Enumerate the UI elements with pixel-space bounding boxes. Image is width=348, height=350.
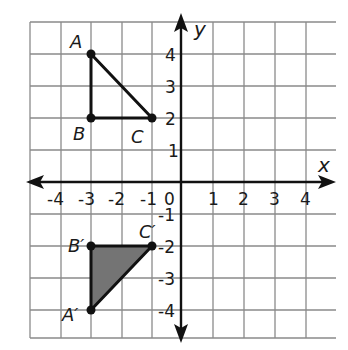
y-tick: 4	[165, 45, 176, 65]
vertex-c	[148, 114, 157, 123]
vertex-b	[87, 114, 96, 123]
vertex-c-prime	[148, 242, 157, 251]
x-tick: 3	[269, 189, 280, 209]
y-axis	[174, 13, 188, 343]
y-tick: 3	[165, 77, 176, 97]
vertex-a	[87, 50, 96, 59]
vertex-a-prime-label: A′	[61, 304, 78, 325]
vertex-b-prime-label: B′	[68, 235, 84, 256]
x-tick: -4	[47, 189, 64, 209]
vertex-a-label: A	[69, 31, 82, 52]
x-tick-labels: -4 -3 -2 -1 0 1 2 3 4	[47, 189, 311, 209]
vertex-a-prime	[87, 306, 96, 315]
x-tick: 1	[208, 189, 219, 209]
x-tick: -1	[140, 189, 157, 209]
x-tick: 2	[238, 189, 249, 209]
x-tick: -3	[78, 189, 95, 209]
x-axis-label: x	[317, 153, 330, 177]
x-tick: 4	[300, 189, 311, 209]
y-tick: -1	[158, 205, 175, 225]
y-tick: -2	[158, 237, 175, 257]
vertex-b-prime	[87, 242, 96, 251]
triangle-abc: A B C	[69, 31, 157, 147]
y-axis-label: y	[193, 17, 207, 41]
y-tick: -3	[158, 269, 175, 289]
vertex-c-label: C	[131, 126, 144, 147]
grid	[30, 22, 336, 338]
x-tick: -2	[108, 189, 125, 209]
vertex-c-prime-label: C′	[139, 221, 156, 242]
coordinate-plane: y x -4 -3 -2 -1 0 1 2 3 4 4 3 2 1 -1 -2 …	[0, 0, 348, 350]
y-tick: 1	[168, 141, 179, 161]
y-tick: -4	[158, 301, 175, 321]
y-tick: 2	[165, 109, 176, 129]
vertex-b-label: B	[73, 123, 85, 144]
